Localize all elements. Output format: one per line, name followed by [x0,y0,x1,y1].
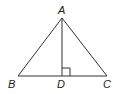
segment-ac [62,18,107,76]
label-d: D [57,78,65,90]
label-c: C [103,78,111,90]
right-angle-marker-icon [62,68,70,76]
label-b: B [8,78,15,90]
segment-ab [18,18,62,76]
label-a: A [57,4,65,16]
triangle-diagram: A B D C [0,0,113,94]
